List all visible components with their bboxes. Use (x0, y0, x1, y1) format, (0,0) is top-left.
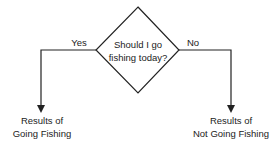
result-going-fishing-line2: Going Fishing (2, 127, 82, 140)
yes-arrowhead-icon (37, 105, 45, 113)
no-branch-label: No (182, 36, 204, 49)
yes-branch-label: Yes (66, 36, 92, 49)
result-not-going-fishing-line2: Not Going Fishing (186, 127, 276, 140)
decision-text-line1: Should I go (98, 38, 178, 51)
yes-branch-connector (41, 50, 96, 106)
no-branch-connector (179, 50, 231, 106)
result-going-fishing-line1: Results of (2, 114, 82, 127)
decision-text-line2: fishing today? (98, 51, 178, 64)
result-going-fishing: Results of Going Fishing (2, 114, 82, 140)
result-not-going-fishing: Results of Not Going Fishing (186, 114, 276, 140)
no-arrowhead-icon (227, 105, 235, 113)
result-not-going-fishing-line1: Results of (186, 114, 276, 127)
decision-text: Should I go fishing today? (98, 38, 178, 64)
